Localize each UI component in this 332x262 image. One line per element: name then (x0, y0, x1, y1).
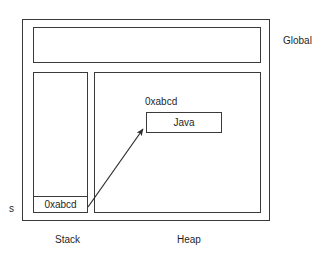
heap-region-box (94, 72, 261, 213)
heap-address-label: 0xabcd (145, 96, 177, 107)
stack-region-box (33, 72, 88, 213)
stack-slot-value: 0xabcd (33, 196, 88, 213)
heap-region-label: Heap (177, 234, 201, 245)
stack-variable-label: s (9, 203, 14, 214)
heap-object-value: Java (146, 112, 222, 133)
stack-region-label: Stack (55, 234, 80, 245)
memory-model-diagram: 0xabcd Java 0xabcd Global Stack Heap s (0, 0, 332, 262)
global-region-label: Global (283, 35, 312, 46)
global-band-box (33, 27, 261, 63)
